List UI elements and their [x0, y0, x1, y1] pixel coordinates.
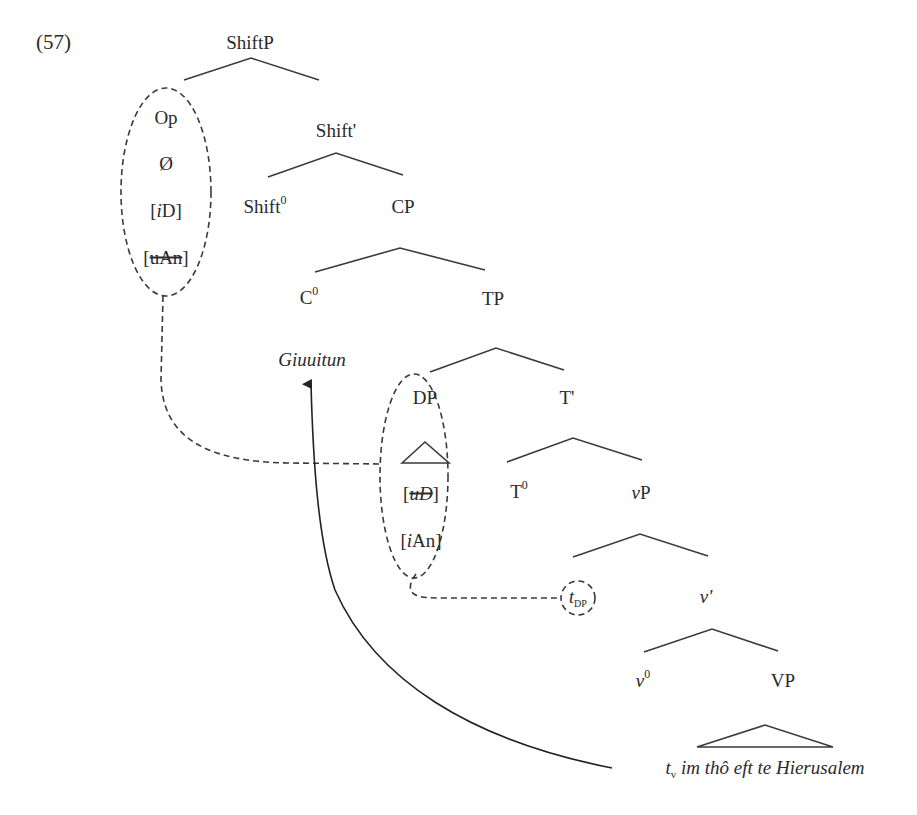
branch-tp	[430, 348, 564, 372]
branch-vp-small	[573, 534, 708, 557]
verb-movement-arrow	[311, 384, 612, 768]
node-t-head: T0	[510, 481, 528, 501]
node-shiftp: ShiftP	[226, 33, 274, 52]
feature-iAn: [iAn]	[400, 531, 441, 550]
node-vp: VP	[771, 671, 795, 690]
moved-verb-giuuitun: Giuuitun	[278, 350, 346, 369]
branch-cp	[315, 248, 485, 272]
vp-triangle	[697, 725, 833, 747]
feature-uD-checked: [uD]	[403, 484, 439, 503]
node-v-head: v0	[636, 670, 650, 690]
node-op: Op	[154, 108, 177, 127]
syntax-tree-diagram	[0, 0, 917, 815]
feature-iD: [iD]	[150, 201, 182, 220]
agree-connector-op-dp	[161, 296, 380, 464]
node-null: Ø	[159, 154, 173, 173]
node-shift-bar: Shift'	[316, 121, 356, 140]
chain-connector-dp-trace	[410, 574, 561, 598]
node-tp: TP	[482, 289, 504, 308]
feature-uAn-checked: [uAn]	[143, 248, 188, 267]
trace-dp: tDP	[569, 588, 587, 606]
branch-shiftp	[184, 58, 319, 80]
node-v-bar: v'	[700, 587, 713, 606]
branch-v-bar	[644, 629, 778, 652]
node-c-head: C0	[300, 287, 319, 307]
dp-triangle	[402, 442, 449, 463]
node-shift-head: Shift0	[244, 196, 287, 216]
vp-content: tv im thô eft te Hierusalem	[665, 758, 864, 777]
node-t-bar: T'	[559, 388, 574, 407]
branch-shift-bar	[268, 153, 403, 177]
node-dp: DP	[413, 388, 437, 407]
node-cp: CP	[391, 197, 414, 216]
branch-t-bar	[507, 438, 642, 462]
node-small-vp: vP	[631, 483, 650, 502]
